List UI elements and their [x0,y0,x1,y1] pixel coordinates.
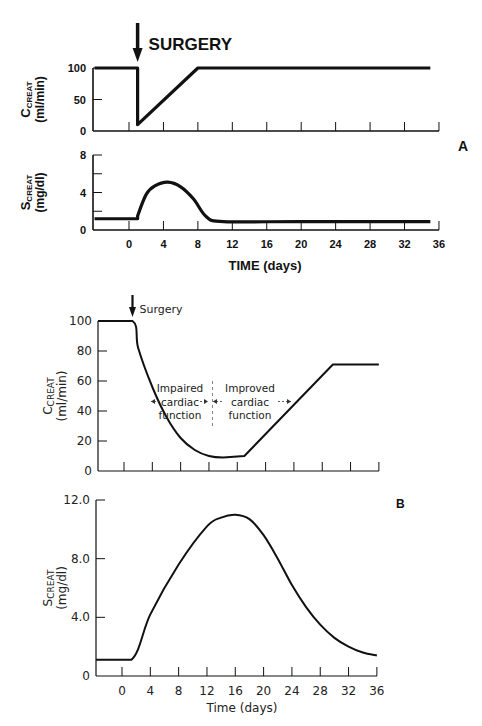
x-tick-label: 12 [199,684,214,698]
data-line [95,68,431,125]
chart-a-creatinine-clearance: 050100CCREAT(ml/min)SURGERY [18,23,439,137]
y-axis-unit: (mg/dl) [33,173,47,213]
x-tick-label: 16 [261,238,273,250]
y-axis-label: SCREAT [18,175,34,211]
surgery-arrowhead-icon [133,48,143,62]
x-tick-label: 0 [118,684,126,698]
x-tick-label: 8 [175,684,183,698]
y-axis-label: CCREAT [41,377,56,415]
y-tick-label: 100 [68,62,86,74]
x-tick-label: 28 [364,238,376,250]
y-tick-label: 4.0 [71,610,90,624]
y-tick-label: 20 [77,434,92,448]
y-tick-label: 0 [82,669,90,683]
chart-a-serum-creatinine: 04812162024283236048SCREAT(mg/dl)TIME (d… [18,149,445,273]
x-tick-label: 20 [256,684,271,698]
phase-label: cardiac [161,396,199,408]
phase-label: cardiac [231,396,269,408]
x-tick-label: 12 [226,238,238,250]
y-tick-label: 0 [80,224,86,236]
x-tick-label: 32 [398,238,410,250]
y-axis-unit: (mg/dl) [55,566,69,610]
x-tick-label: 0 [126,238,132,250]
chart-b-creatinine-clearance: 020406080100CCREAT(ml/min)SurgeryImpaire… [41,295,379,478]
panel-label-a: A [458,138,468,154]
x-axis-label: TIME (days) [229,258,302,273]
figure: 050100CCREAT(ml/min)SURGERY 048121620242… [0,0,482,726]
x-tick-label: 4 [160,238,167,250]
x-tick-label: 20 [295,238,307,250]
chart-b-serum-creatinine: 0481216202428323604.08.012.0SCREAT(mg/dl… [41,493,385,715]
y-tick-label: 100 [69,314,92,328]
improved-left-arrow-icon-head [213,399,217,404]
y-tick-label: 80 [77,344,92,358]
surgery-label: SURGERY [149,35,233,54]
y-tick-label: 50 [74,94,86,106]
y-tick-label: 8.0 [71,552,90,566]
x-tick-label: 24 [330,238,343,250]
surgery-label: Surgery [139,303,183,316]
y-axis-unit: (ml/min) [33,76,47,123]
data-line [96,515,377,660]
x-tick-label: 32 [341,684,356,698]
y-tick-label: 0 [84,464,92,478]
impaired-left-arrow-icon-head [151,399,155,404]
impaired-right-arrow-icon-head [204,399,208,404]
phase-label: function [159,409,202,421]
data-line [95,182,431,222]
y-tick-label: 60 [77,374,92,388]
x-tick-label: 8 [195,238,201,250]
y-tick-label: 8 [80,149,86,161]
x-tick-label: 28 [313,684,328,698]
x-tick-label: 36 [433,238,445,250]
y-tick-label: 40 [77,404,92,418]
y-tick-label: 4 [80,187,87,199]
x-tick-label: 36 [369,684,384,698]
surgery-arrowhead-icon [129,307,136,317]
y-axis-unit: (ml/min) [55,370,69,421]
x-axis-label: Time (days) [206,701,278,715]
x-tick-label: 24 [284,684,299,698]
x-tick-label: 4 [146,684,154,698]
phase-label: function [229,409,272,421]
phase-label: Improved [225,382,275,394]
phase-label: Impaired [157,382,204,394]
y-tick-label: 12.0 [63,493,90,507]
x-tick-label: 16 [228,684,243,698]
y-axis-label: SCREAT [41,569,56,606]
panel-label-b: B [396,497,405,511]
improved-right-arrow-icon-head [287,399,291,404]
y-axis-label: CCREAT [18,81,34,117]
y-tick-label: 0 [80,125,86,137]
